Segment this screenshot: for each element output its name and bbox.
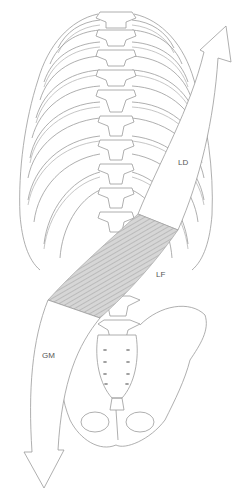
label-lf: LF (156, 270, 165, 279)
label-gm: GM (42, 351, 55, 360)
gm-arrow (24, 300, 100, 488)
label-ld: LD (178, 158, 188, 167)
anatomy-diagram (0, 0, 242, 498)
